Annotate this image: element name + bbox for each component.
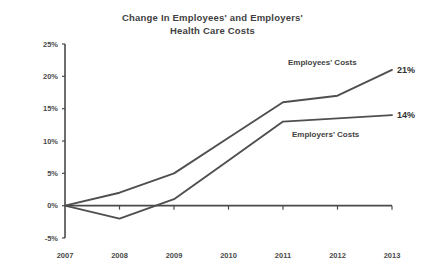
series-name-label-2: Employers' Costs [292, 130, 360, 139]
y-tick-label: 20% [43, 72, 58, 81]
x-tick-label: 2007 [57, 251, 74, 260]
x-tick-label: 2013 [384, 251, 401, 260]
data-series-group: 21%14% [65, 65, 415, 219]
chart-container: Change In Employees' and Employers' Heal… [0, 0, 425, 274]
y-tick-label: -5% [45, 234, 59, 243]
series-name-label-1: Employees' Costs [288, 58, 357, 67]
chart-plot-area: -5%0%5%10%15%20%25% 20072008200920102011… [0, 0, 425, 274]
x-tick-label: 2012 [329, 251, 346, 260]
x-tick-label: 2011 [275, 251, 291, 260]
y-tick-label: 5% [47, 169, 58, 178]
y-tick-label: 15% [43, 104, 58, 113]
y-tick-label: 10% [43, 137, 58, 146]
series-endpoint-label: 14% [397, 110, 415, 120]
x-axis-ticks: 2007200820092010201120122013 [57, 206, 401, 260]
x-tick-label: 2009 [166, 251, 183, 260]
series-annotations: Employees' CostsEmployers' Costs [288, 58, 360, 139]
x-tick-label: 2010 [220, 251, 237, 260]
y-tick-label: 0% [47, 201, 58, 210]
y-tick-label: 25% [43, 40, 58, 49]
series-endpoint-label: 21% [397, 65, 415, 75]
x-tick-label: 2008 [111, 251, 128, 260]
y-axis-ticks: -5%0%5%10%15%20%25% [43, 40, 65, 243]
